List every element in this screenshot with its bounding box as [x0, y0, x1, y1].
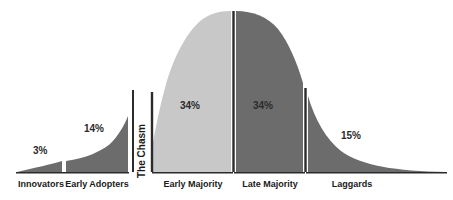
value-label-early-adopters: 14% — [84, 124, 104, 134]
segment-area-innovators — [17, 161, 62, 172]
category-label-early-majority: Early Majority — [152, 180, 234, 189]
adoption-curve-graphic — [0, 0, 453, 200]
category-label-early-adopters: Early Adopters — [57, 180, 137, 189]
value-label-innovators: 3% — [33, 146, 47, 156]
value-label-laggards: 15% — [341, 131, 361, 141]
value-label-late-majority: 34% — [253, 101, 273, 111]
segment-area-late-majority — [236, 11, 303, 172]
segment-area-early-majority — [153, 11, 231, 172]
adoption-curve-chart: 3% 14% 34% 34% 15% The Chasm Innovators … — [0, 0, 453, 200]
category-label-late-majority: Late Majority — [234, 180, 306, 189]
value-label-early-majority: 34% — [180, 101, 200, 111]
category-label-laggards: Laggards — [306, 180, 398, 189]
segment-area-laggards — [308, 96, 446, 172]
chasm-annotation-label: The Chasm — [137, 124, 147, 178]
